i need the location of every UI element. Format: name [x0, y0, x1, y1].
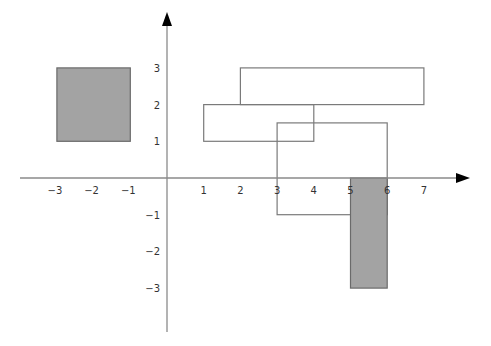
shaded-rect-vertical	[351, 178, 388, 288]
x-tick-label: −1	[121, 185, 136, 196]
y-tick-label: 2	[154, 100, 160, 111]
x-tick-label: 3	[274, 185, 280, 196]
x-tick-label: −3	[48, 185, 63, 196]
x-axis-arrowhead-icon	[456, 173, 470, 183]
x-tick-label: 2	[237, 185, 243, 196]
coordinate-plane: −3−2−11234567321−1−2−3	[0, 0, 491, 346]
y-tick-label: −2	[145, 246, 160, 257]
x-tick-label: 4	[311, 185, 317, 196]
x-tick-label: 7	[421, 185, 427, 196]
x-tick-label: 5	[347, 185, 353, 196]
shaded-square-left	[57, 68, 130, 141]
y-tick-label: 1	[154, 136, 160, 147]
x-tick-label: 1	[201, 185, 207, 196]
y-tick-label: −3	[145, 283, 160, 294]
y-tick-label: −1	[145, 210, 160, 221]
y-axis-arrowhead-icon	[162, 12, 172, 26]
axes-layer	[20, 12, 470, 332]
x-tick-label: 6	[384, 185, 390, 196]
outline-rect-top	[240, 68, 424, 105]
y-tick-label: 3	[154, 63, 160, 74]
x-tick-label: −2	[84, 185, 99, 196]
